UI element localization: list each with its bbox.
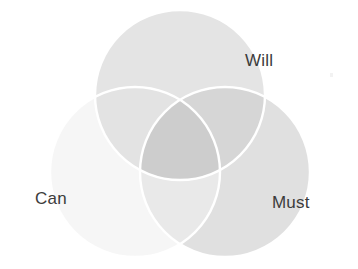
venn-circles-graphic	[0, 0, 358, 269]
venn-label-must: Must	[272, 194, 310, 211]
background-speck	[330, 73, 333, 77]
venn-label-will: Will	[245, 52, 273, 69]
venn-diagram: Will Can Must	[0, 0, 358, 269]
venn-label-can: Can	[35, 190, 67, 207]
